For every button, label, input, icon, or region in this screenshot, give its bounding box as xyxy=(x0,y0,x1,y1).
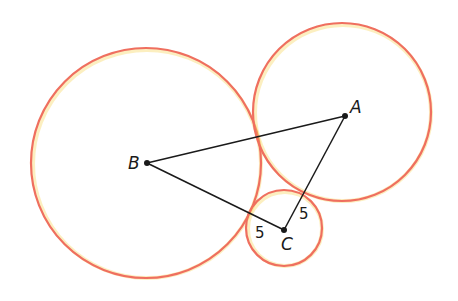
point-c xyxy=(281,227,287,233)
segment-ab xyxy=(147,116,345,163)
point-b xyxy=(144,160,150,166)
segment-ac xyxy=(284,116,345,230)
tangent-circles-diagram: A B C 5 5 xyxy=(0,0,458,301)
point-a xyxy=(342,113,348,119)
segment-label-bc: 5 xyxy=(255,224,265,242)
label-b: B xyxy=(128,153,140,173)
circle-a xyxy=(253,23,431,201)
label-c: C xyxy=(281,234,293,254)
segment-label-ac: 5 xyxy=(299,205,309,223)
label-a: A xyxy=(349,97,362,117)
circles xyxy=(31,23,431,278)
